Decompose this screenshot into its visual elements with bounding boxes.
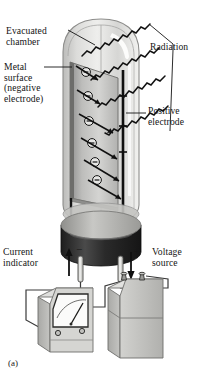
pin-right-highlight [119,258,120,281]
battery-front-face [120,279,163,358]
label-negative-terminal: − [76,244,82,255]
label-radiation: Radiation [150,42,203,53]
label-evacuated-chamber: Evacuated chamber [6,26,80,47]
meter-terminal-right [79,328,84,333]
battery-terminal-left [121,272,127,280]
glass-highlight-streak [128,64,131,196]
apparatus-illustration [0,0,203,378]
pin-left-highlight [79,258,80,281]
label-current-indicator: Current indicator [3,247,65,268]
label-voltage-source: Voltage source [152,247,202,268]
current-indicator-device [38,288,93,352]
figure-caption: (a) [8,358,18,368]
label-positive-electrode: Positive electrode [148,106,203,127]
voltage-source-device [108,272,163,358]
battery-terminal-right [139,272,145,280]
metal-surface-edge [70,62,74,199]
meter-terminal-left [55,330,60,335]
meter-needle-pivot [70,323,73,326]
label-metal-surface: Metal surface (negative electrode) [4,62,70,104]
photoelectric-effect-figure: Evacuated chamber Metal surface (negativ… [0,0,203,378]
battery-left-face [108,288,120,358]
meter-left-face [38,297,50,352]
metal-surface-plate [70,62,118,208]
label-positive-terminal: + [134,246,139,257]
tube-base [61,211,141,266]
meter-window [53,294,88,327]
